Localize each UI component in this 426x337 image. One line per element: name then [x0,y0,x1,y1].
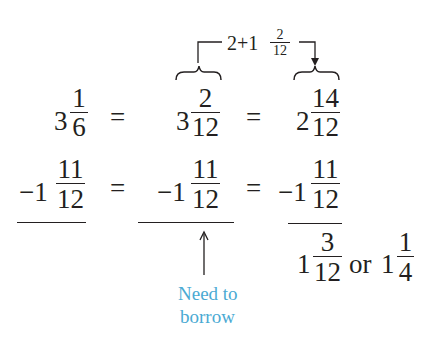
note-line1: Need to [178,283,238,305]
result-1-den: 12 [313,259,342,286]
result-2-num: 1 [397,229,414,256]
result-2-whole: 1 [381,251,395,278]
result-or: or [349,251,372,278]
result-2-den: 4 [397,259,414,286]
note-line2: borrow [180,306,235,328]
result-1-num: 3 [313,229,342,256]
result-1-whole: 1 [297,251,311,278]
